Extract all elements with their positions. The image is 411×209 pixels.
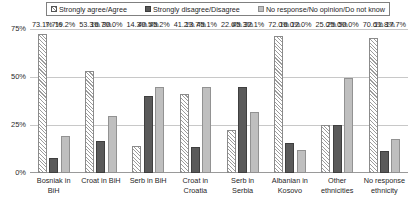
bar[interactable]: 17.7% (391, 139, 400, 173)
bar-group: 73.1%7.7%19.2% (30, 29, 77, 173)
legend-item-no-response: No response/No opinion/Do not know (258, 5, 385, 14)
bar-value-label: 19.2% (55, 21, 76, 29)
bar[interactable]: 41.2% (180, 94, 189, 173)
bar-slot: 45.3% (238, 29, 247, 173)
x-axis-label-line: ethnicities (315, 186, 360, 196)
legend-label-strongly-agree: Strongly agree/Agree (59, 5, 127, 14)
bar-slot: 13.7% (191, 29, 200, 173)
bar-slot: 25.0% (333, 29, 342, 173)
bar-slot: 12.0% (297, 29, 306, 173)
y-tick-25: 25% (0, 121, 26, 129)
legend-item-strongly-agree: Strongly agree/Agree (51, 5, 127, 14)
bar-slot: 16.0% (285, 29, 294, 173)
bar[interactable]: 45.1% (202, 87, 211, 173)
y-tick-0: 0% (0, 169, 26, 177)
x-axis-label-line: Croat in (173, 176, 218, 186)
x-axis-label-line: Kosovo (267, 186, 312, 196)
bar-value-label: 50.0% (338, 21, 359, 29)
bar[interactable]: 14.3% (132, 146, 141, 173)
bar-slot: 30.0% (108, 29, 117, 173)
x-axis-label: Bosniak inBiH (30, 176, 77, 206)
x-axis-label-line: Serbia (220, 186, 265, 196)
legend-item-strongly-disagree: Strongly disagree/Disagree (145, 5, 240, 14)
x-axis-label-line: BiH (31, 186, 76, 196)
hatch-swatch-icon (51, 6, 57, 12)
bar-slot: 25.0% (321, 29, 330, 173)
bar-slot: 40.5% (144, 29, 153, 173)
bar-group: 72.0%16.0%12.0% (266, 29, 313, 173)
bar-slot: 22.6% (227, 29, 236, 173)
bar-group: 53.3%16.7%30.0% (77, 29, 124, 173)
chart-legend: Strongly agree/Agree Strongly disagree/D… (46, 2, 390, 16)
bar[interactable]: 73.1% (38, 34, 47, 173)
x-axis-label: Serb in BiH (125, 176, 172, 206)
bar-slot: 72.0% (274, 29, 283, 173)
x-axis-label: Croat in BiH (77, 176, 124, 206)
bar[interactable]: 72.0% (274, 36, 283, 173)
x-axis-label-line: No response (362, 176, 407, 186)
bar[interactable]: 45.3% (238, 87, 247, 173)
bar-slot: 70.6% (369, 29, 378, 173)
bar-slot: 53.3% (85, 29, 94, 173)
bar[interactable]: 12.0% (297, 150, 306, 173)
bar-groups: 73.1%7.7%19.2%53.3%16.7%30.0%14.3%40.5%4… (30, 29, 408, 173)
bar-slot: 50.0% (344, 29, 353, 173)
x-axis-label-line: Croat in BiH (78, 176, 123, 186)
bar[interactable]: 70.6% (369, 38, 378, 173)
x-axis-label-line: Serb in BiH (126, 176, 171, 186)
grouped-bar-chart: Strongly agree/Agree Strongly disagree/D… (0, 0, 411, 209)
bar-slot: 19.2% (61, 29, 70, 173)
x-axis: Bosniak inBiHCroat in BiHSerb in BiHCroa… (30, 176, 408, 206)
bar-value-label: 32.1% (244, 21, 265, 29)
bar[interactable]: 25.0% (333, 125, 342, 173)
x-axis-label: Croat inCroatia (172, 176, 219, 206)
bar[interactable]: 45.2% (155, 87, 164, 173)
bar-slot: 16.7% (96, 29, 105, 173)
bar-slot: 45.2% (155, 29, 164, 173)
bar-slot: 14.3% (132, 29, 141, 173)
bar[interactable]: 30.0% (108, 116, 117, 173)
bar-group: 22.6%45.3%32.1% (219, 29, 266, 173)
bar[interactable]: 19.2% (61, 136, 70, 173)
x-axis-label-line: Albanian in (267, 176, 312, 186)
y-tick-75: 75% (0, 25, 26, 33)
bar-value-label: 17.7% (385, 21, 406, 29)
bar-slot: 45.1% (202, 29, 211, 173)
x-axis-label: Otherethnicities (314, 176, 361, 206)
bar[interactable]: 50.0% (344, 78, 353, 173)
x-axis-label-line: ethnicity (362, 186, 407, 196)
bar-slot: 32.1% (250, 29, 259, 173)
bar-value-label: 45.1% (196, 21, 217, 29)
bar-slot: 7.7% (49, 29, 58, 173)
light-swatch-icon (258, 6, 264, 12)
bar[interactable]: 13.7% (191, 147, 200, 173)
x-axis-label-line: Other (315, 176, 360, 186)
plot-area: 73.1%7.7%19.2%53.3%16.7%30.0%14.3%40.5%4… (30, 29, 408, 173)
y-tick-50: 50% (0, 73, 26, 81)
x-axis-label-line: Bosniak in (31, 176, 76, 186)
bar-value-label: 12.0% (291, 21, 312, 29)
bar[interactable]: 25.0% (321, 125, 330, 173)
bar-group: 25.0%25.0%50.0% (314, 29, 361, 173)
bar-value-label: 30.0% (102, 21, 123, 29)
x-axis-label-line: Serb in (220, 176, 265, 186)
bar-slot: 73.1% (38, 29, 47, 173)
bar-slot: 17.7% (391, 29, 400, 173)
bar-group: 70.6%11.8%17.7% (361, 29, 408, 173)
bar-value-label: 45.2% (149, 21, 170, 29)
bar-group: 41.2%13.7%45.1% (172, 29, 219, 173)
x-axis-label-line: Croatia (173, 186, 218, 196)
bar[interactable]: 16.0% (285, 143, 294, 174)
bar[interactable]: 16.7% (96, 141, 105, 173)
bar[interactable]: 32.1% (250, 112, 259, 173)
bar[interactable]: 40.5% (144, 96, 153, 173)
bar-slot: 41.2% (180, 29, 189, 173)
dark-swatch-icon (145, 6, 151, 12)
legend-label-strongly-disagree: Strongly disagree/Disagree (153, 5, 240, 14)
x-axis-label: Albanian inKosovo (266, 176, 313, 206)
bar[interactable]: 7.7% (49, 158, 58, 173)
bar[interactable]: 53.3% (85, 71, 94, 173)
bar-group: 14.3%40.5%45.2% (125, 29, 172, 173)
bar[interactable]: 11.8% (380, 151, 389, 173)
bar[interactable]: 22.6% (227, 130, 236, 173)
